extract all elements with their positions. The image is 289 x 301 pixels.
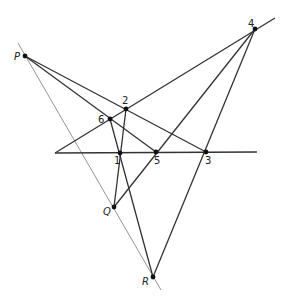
point-3 [204, 150, 209, 155]
line-P65 [25, 56, 156, 152]
line-624 [55, 18, 275, 153]
point-6 [108, 117, 113, 122]
label-4: 4 [248, 18, 254, 29]
projective-geometry-diagram: 123456PQR [0, 0, 289, 301]
label-1: 1 [114, 155, 120, 166]
label-q: Q [103, 206, 111, 217]
label-6: 6 [98, 114, 104, 125]
point-q [112, 205, 117, 210]
label-5: 5 [154, 155, 160, 166]
label-r: R [142, 276, 149, 287]
point-r [151, 275, 156, 280]
line-61R [110, 119, 153, 277]
point-2 [124, 107, 129, 112]
label-3: 3 [205, 155, 211, 166]
lines-layer [18, 18, 275, 290]
line-4Q [114, 29, 255, 207]
point-p [23, 54, 28, 59]
label-2: 2 [122, 95, 128, 106]
label-p: P [14, 51, 21, 62]
point-5 [154, 150, 159, 155]
guide-PQR [18, 43, 161, 290]
